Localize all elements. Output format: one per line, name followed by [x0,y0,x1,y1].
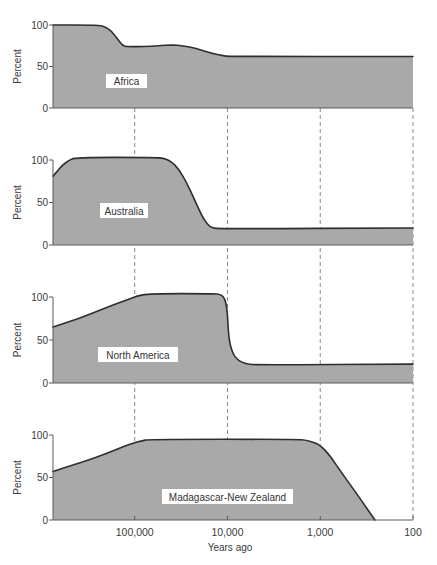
region-label: Australia [105,206,144,217]
y-tick-label: 0 [42,378,48,389]
y-axis-title: Percent [12,460,23,495]
x-tick-label: 1,000 [307,526,333,538]
panel-australia: 0 50 100 Percent Australia [12,155,413,251]
y-axis-title: Percent [12,323,23,358]
region-label: Africa [114,76,140,87]
area-fill [53,157,413,245]
region-label: North America [106,350,170,361]
y-tick-label: 100 [31,20,48,31]
panel-africa: 0 50 100 Percent Africa [12,20,413,114]
x-tick-label: 100,000 [116,526,154,538]
y-axis-title: Percent [12,49,23,84]
y-tick-label: 50 [37,61,49,72]
x-tick-label: 10,000 [211,526,243,538]
y-tick-label: 0 [42,103,48,114]
area-fill [53,25,413,108]
panel-madagascar-new-zealand: 0 50 100 Percent Madagascar-New Zealand … [12,430,422,539]
panel-north-america: 0 50 100 Percent North America [12,292,413,389]
y-axis-title: Percent [12,185,23,220]
y-tick-label: 50 [37,472,49,483]
y-tick-label: 100 [31,430,48,441]
extinction-chart-figure: 0 50 100 Percent Africa 0 50 100 Percent… [0,0,437,565]
y-tick-label: 50 [37,335,49,346]
x-axis-title: Years ago [208,542,253,553]
x-tick-label: 100 [404,526,422,538]
region-label: Madagascar-New Zealand [169,492,286,503]
y-tick-label: 100 [31,155,48,166]
y-tick-label: 50 [37,197,49,208]
y-tick-label: 0 [42,515,48,526]
y-tick-label: 100 [31,292,48,303]
y-tick-label: 0 [42,240,48,251]
